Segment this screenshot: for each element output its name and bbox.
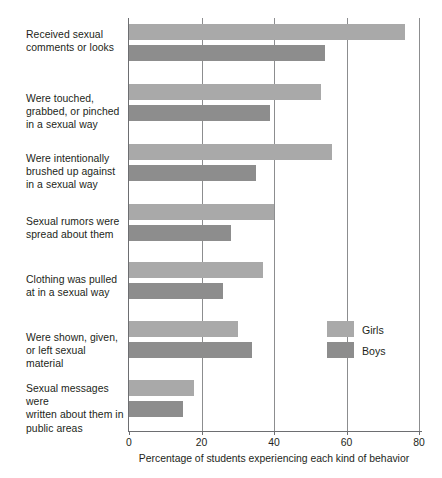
x-tick-mark-40 — [274, 431, 275, 435]
bar-boys-1 — [129, 45, 325, 61]
bar-boys-3 — [129, 165, 256, 181]
bar-chart: Received sexualcomments or looksWere tou… — [0, 0, 442, 478]
x-tick-label-40: 40 — [268, 437, 280, 448]
category-label-line: in a sexual way — [26, 178, 124, 191]
x-axis-title: Percentage of students experiencing each… — [129, 453, 419, 464]
category-label-line: Were touched, — [26, 92, 124, 105]
category-label-2: Were touched,grabbed, or pinchedin a sex… — [26, 92, 124, 132]
category-label-1: Received sexualcomments or looks — [26, 28, 124, 54]
category-label-line: in a sexual way — [26, 118, 124, 131]
x-tick-mark-20 — [202, 431, 203, 435]
bar-boys-4 — [129, 225, 231, 241]
bar-boys-2 — [129, 105, 270, 121]
category-label-line: brushed up against — [26, 165, 124, 178]
bar-girls-5 — [129, 262, 263, 278]
category-label-4: Sexual rumors werespread about them — [26, 215, 124, 241]
category-label-7: Sexual messages werewritten about them i… — [26, 382, 124, 435]
legend-label-girls: Girls — [362, 324, 384, 336]
bar-girls-2 — [129, 84, 321, 100]
bar-girls-1 — [129, 24, 405, 40]
legend-swatch-boys — [327, 342, 354, 358]
x-tick-mark-0 — [129, 431, 130, 435]
category-label-line: written about them in — [26, 408, 124, 421]
bar-boys-7 — [129, 401, 183, 417]
category-label-line: comments or looks — [26, 41, 124, 54]
category-label-6: Were shown, given,or left sexual materia… — [26, 331, 124, 371]
gridline-60 — [347, 18, 348, 431]
category-label-line: spread about them — [26, 228, 124, 241]
category-label-3: Were intentionallybrushed up againstin a… — [26, 152, 124, 192]
category-label-5: Clothing was pulledat in a sexual way — [26, 273, 124, 299]
bar-girls-3 — [129, 144, 332, 160]
bar-girls-4 — [129, 204, 274, 220]
category-label-line: Were intentionally — [26, 152, 124, 165]
legend-swatch-girls — [327, 321, 354, 337]
category-label-line: Clothing was pulled — [26, 273, 124, 286]
category-label-line: Sexual messages were — [26, 382, 124, 408]
category-label-line: Sexual rumors were — [26, 215, 124, 228]
x-axis-line — [128, 431, 422, 432]
gridline-40 — [274, 18, 275, 431]
category-label-line: public areas — [26, 422, 124, 435]
x-tick-mark-80 — [419, 431, 420, 435]
gridline-80 — [419, 18, 420, 431]
bar-girls-6 — [129, 321, 238, 337]
x-tick-mark-60 — [347, 431, 348, 435]
plot-area: 020406080 GirlsBoys — [129, 18, 419, 431]
category-label-line: Were shown, given, — [26, 331, 124, 344]
x-tick-label-0: 0 — [126, 437, 132, 448]
category-label-line: Received sexual — [26, 28, 124, 41]
category-axis-labels: Received sexualcomments or looksWere tou… — [0, 0, 124, 478]
bar-boys-6 — [129, 342, 252, 358]
bar-girls-7 — [129, 380, 194, 396]
x-tick-label-20: 20 — [196, 437, 208, 448]
x-tick-label-60: 60 — [341, 437, 353, 448]
bar-boys-5 — [129, 283, 223, 299]
category-label-line: grabbed, or pinched — [26, 105, 124, 118]
category-label-line: at in a sexual way — [26, 286, 124, 299]
legend-label-boys: Boys — [362, 345, 386, 357]
category-label-line: or left sexual material — [26, 344, 124, 370]
x-tick-label-80: 80 — [413, 437, 425, 448]
